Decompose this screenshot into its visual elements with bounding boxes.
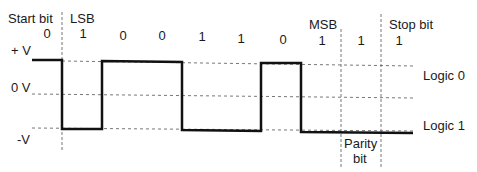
bit-value: 1: [318, 34, 325, 47]
logic-1-label: Logic 1: [423, 119, 465, 132]
bit-value: 0: [119, 29, 126, 42]
bit-value: 0: [279, 33, 286, 46]
stop-bit-label: Stop bit: [389, 18, 433, 31]
plus-v-label: + V: [11, 44, 31, 57]
start-bit-label: Start bit: [8, 12, 53, 25]
minus-v-label: -V: [17, 133, 30, 146]
bit-value: 1: [79, 27, 86, 40]
msb-label: MSB: [309, 18, 337, 31]
bit-value: 1: [237, 32, 244, 45]
logic-0-label: Logic 0: [423, 69, 465, 82]
zero-v-reference-line: [32, 94, 414, 98]
parity-bit-label-line2: bit: [353, 152, 367, 165]
signal-waveform: [32, 60, 413, 133]
bit-value: 0: [43, 27, 50, 40]
lsb-label: LSB: [70, 12, 95, 25]
bit-value: 1: [395, 34, 402, 47]
zero-v-label: 0 V: [11, 81, 31, 94]
parity-bit-label-line1: Parity: [344, 137, 377, 150]
bit-value: 1: [198, 30, 205, 43]
bit-value: 0: [158, 29, 165, 42]
bit-value: 1: [357, 34, 364, 47]
